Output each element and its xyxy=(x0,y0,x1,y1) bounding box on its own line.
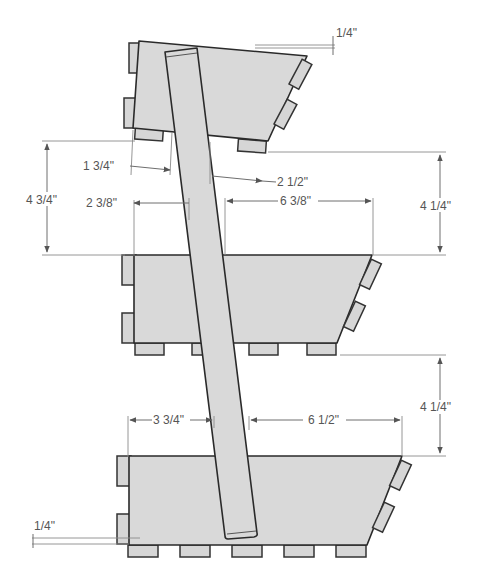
dim-middle-right-span-label: 6 3/8" xyxy=(280,194,311,208)
bottom-tier xyxy=(117,456,411,557)
middle-foot-3 xyxy=(249,343,278,355)
middle-foot-4 xyxy=(307,343,336,355)
planter-drawing: 1/4" 4 3/4" 1 3/4" 2 1/2" 4 1/4" 2 3/8" xyxy=(0,0,481,588)
dim-bottom-left-span-label: 3 3/4" xyxy=(153,413,184,427)
dim-middle-left-span: 2 3/8" xyxy=(86,196,189,256)
dim-top-leg-offset-label: 2 1/2" xyxy=(277,175,308,189)
middle-foot-1 xyxy=(135,343,164,355)
dim-middle-left-span-label: 2 3/8" xyxy=(86,196,117,210)
dim-top-to-middle-height: 4 3/4" xyxy=(24,141,135,255)
dim-top-tilt-label: 1/4" xyxy=(336,26,357,40)
bottom-tier-body xyxy=(129,456,402,545)
bottom-foot-4 xyxy=(284,545,314,557)
dim-top-tilt: 1/4" xyxy=(255,26,357,55)
top-tier xyxy=(124,41,312,153)
dim-middle-right-span: 6 3/8" xyxy=(225,194,373,255)
dim-top-overhang-label: 1 3/4" xyxy=(83,159,114,173)
bottom-foot-5 xyxy=(336,545,366,557)
dim-bottom-right-span: 6 1/2" xyxy=(249,413,402,456)
middle-tier xyxy=(122,255,381,355)
dim-top-to-middle-label: 4 3/4" xyxy=(26,193,57,207)
dim-bottom-left-span: 3 3/4" xyxy=(128,413,214,457)
dim-bottom-rise-right-label: 4 1/4" xyxy=(420,400,451,414)
bottom-foot-1 xyxy=(128,545,158,557)
bottom-foot-2 xyxy=(180,545,210,557)
dim-bottom-gap-label: 1/4" xyxy=(34,519,55,533)
dim-bottom-right-span-label: 6 1/2" xyxy=(308,413,339,427)
middle-tier-body xyxy=(134,255,372,343)
bottom-foot-3 xyxy=(232,545,262,557)
dim-middle-rise-right-label: 4 1/4" xyxy=(420,199,451,213)
